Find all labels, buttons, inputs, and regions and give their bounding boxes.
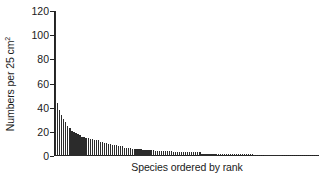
y-axis-tick-labels: 020406080100120 [0,0,52,184]
plot-area [55,11,319,156]
y-axis-tick-label: 80 [37,54,49,64]
y-axis-tick-mark [50,59,54,60]
y-axis-tick-mark [50,84,54,85]
y-axis-tick-label: 60 [37,79,49,89]
y-axis-tick-mark [50,156,54,157]
y-axis-tick-mark [50,11,54,12]
y-axis-tick-label: 120 [31,6,49,16]
y-axis-tick-mark [50,132,54,133]
y-axis-tick-label: 20 [37,127,49,137]
bar [317,155,318,156]
rank-abundance-chart: Numbers per 25 cm2 020406080100120 Speci… [0,0,324,184]
y-axis-tick-mark [50,108,54,109]
x-axis-label: Species ordered by rank [55,160,319,174]
y-axis-tick-label: 40 [37,103,49,113]
y-axis-tick-mark [50,35,54,36]
y-axis-tick-label: 100 [31,30,49,40]
y-axis-tick-label: 0 [43,151,49,161]
bar-series [55,11,319,156]
